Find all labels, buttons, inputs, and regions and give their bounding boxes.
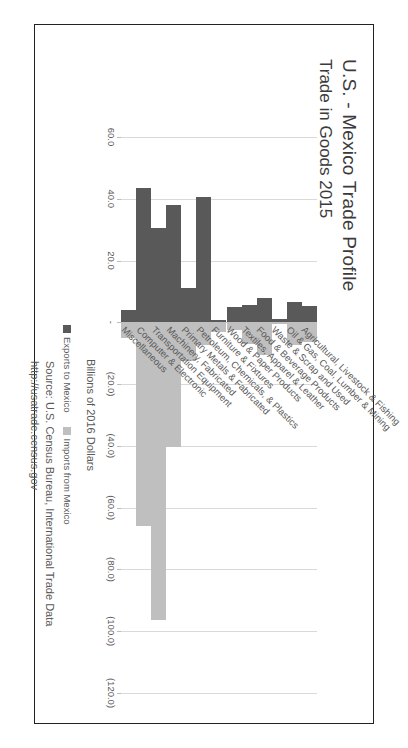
page-title: U.S. - Mexico Trade Profile — [337, 59, 361, 291]
bar-imports — [121, 322, 136, 337]
legend: Exports to MexicoImports from Mexico — [62, 325, 73, 525]
legend-label: Imports from Mexico — [62, 439, 73, 525]
bar-row — [287, 137, 302, 693]
legend-swatch — [64, 325, 72, 333]
bar-exports — [181, 288, 196, 322]
bar-exports — [151, 228, 166, 322]
gridline — [121, 693, 317, 694]
bar-exports — [121, 310, 136, 322]
tick-mark — [117, 261, 121, 262]
bar-row — [151, 137, 166, 693]
tick-label: 20.0 — [106, 251, 117, 270]
legend-item: Imports from Mexico — [62, 427, 73, 525]
source-line-2: http://usatrade.census.gov — [27, 361, 42, 626]
bar-imports — [151, 322, 166, 620]
bar-exports — [136, 188, 151, 322]
source-line-1: Source: U.S. Census Bureau, Internationa… — [42, 361, 57, 626]
x-axis-title: Billions of 2016 Dollars — [85, 137, 97, 693]
source-note: Source: U.S. Census Bureau, Internationa… — [27, 361, 57, 626]
bar-row — [242, 137, 257, 693]
bar-imports — [136, 322, 151, 526]
bar-row — [257, 137, 272, 693]
tick-label: - — [106, 321, 117, 324]
tick-mark — [117, 137, 121, 138]
bar-exports — [166, 205, 181, 322]
bar-row — [227, 137, 242, 693]
bar-imports — [242, 322, 257, 344]
bar-imports — [272, 322, 287, 324]
bar-exports — [196, 197, 211, 322]
bar-exports — [242, 305, 257, 322]
tick-label: (80.0) — [106, 557, 117, 582]
chart-frame: U.S. - Mexico Trade Profile Trade in Goo… — [34, 24, 374, 724]
legend-item: Exports to Mexico — [62, 325, 73, 413]
bar-exports — [287, 302, 302, 322]
tick-mark — [117, 631, 121, 632]
bar-imports — [181, 322, 196, 361]
bar-imports — [227, 322, 242, 330]
tick-label: (60.0) — [106, 495, 117, 520]
bar-row — [302, 137, 317, 693]
plot-area — [121, 137, 317, 693]
bar-imports — [257, 322, 272, 354]
bar-exports — [257, 298, 272, 323]
tick-mark — [117, 199, 121, 200]
bar-exports — [227, 307, 242, 322]
tick-label: (120.0) — [106, 678, 117, 708]
bar-imports — [302, 322, 317, 342]
bar-imports — [196, 322, 211, 345]
tick-mark — [117, 322, 121, 323]
legend-label: Exports to Mexico — [62, 337, 73, 413]
tick-mark — [117, 508, 121, 509]
tick-label: (40.0) — [106, 433, 117, 458]
tick-label: (20.0) — [106, 372, 117, 397]
bar-exports — [302, 306, 317, 322]
chart-titles: U.S. - Mexico Trade Profile Trade in Goo… — [314, 59, 361, 291]
tick-mark — [117, 384, 121, 385]
bar-row — [121, 137, 136, 693]
bar-rows — [121, 137, 317, 693]
tick-mark — [117, 693, 121, 694]
tick-label: 40.0 — [106, 190, 117, 209]
bar-imports — [166, 322, 181, 447]
bar-row — [181, 137, 196, 693]
scanned-page: U.S. - Mexico Trade Profile Trade in Goo… — [0, 0, 408, 748]
bar-row — [136, 137, 151, 693]
rotation-wrapper: U.S. - Mexico Trade Profile Trade in Goo… — [0, 0, 408, 748]
tick-mark — [117, 569, 121, 570]
bar-imports — [212, 322, 227, 331]
tick-label: (100.0) — [106, 616, 117, 646]
bar-row — [196, 137, 211, 693]
tick-label: 60.0 — [106, 128, 117, 147]
legend-swatch — [64, 427, 72, 435]
bar-row — [272, 137, 287, 693]
bar-row — [166, 137, 181, 693]
bar-row — [212, 137, 227, 693]
page-subtitle: Trade in Goods 2015 — [314, 59, 336, 291]
bar-imports — [287, 322, 302, 345]
tick-mark — [117, 446, 121, 447]
